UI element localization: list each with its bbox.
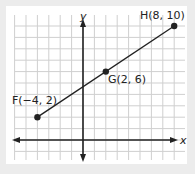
x-axis: x	[12, 134, 187, 147]
y-axis-label: y	[79, 10, 87, 23]
y-axis-down-arrow-icon	[80, 154, 86, 162]
x-axis-left-arrow-icon	[12, 137, 20, 143]
point-h	[171, 23, 177, 29]
label-h: H(8, 10)	[140, 9, 185, 22]
coordinate-plane: x y F(−4, 2) G(2, 6) H(8, 10)	[0, 0, 195, 174]
label-f: F(−4, 2)	[12, 94, 57, 107]
label-g: G(2, 6)	[108, 73, 146, 86]
point-f	[34, 114, 40, 120]
x-axis-label: x	[179, 134, 187, 147]
grid-lines	[15, 15, 185, 160]
